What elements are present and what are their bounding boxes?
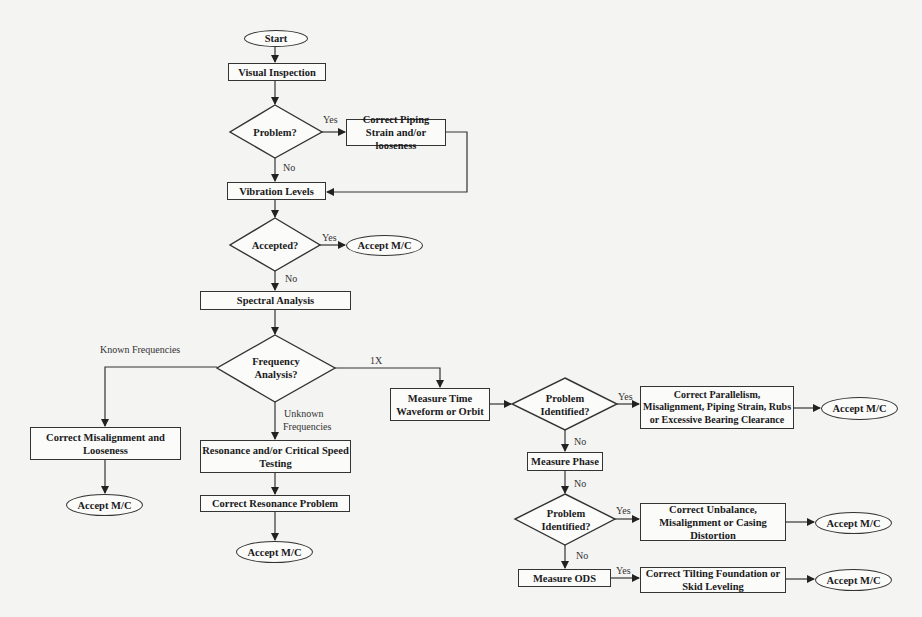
correct-resonance-label: Correct Resonance Problem	[212, 497, 338, 510]
edge-label-unknown-frequencies-2: Frequencies	[283, 421, 331, 432]
measure-ods-label: Measure ODS	[533, 572, 596, 585]
correct-unbalance-label: Correct Unbalance, Misalignment or Casin…	[645, 503, 781, 542]
start-label: Start	[265, 32, 288, 45]
edge-label-accepted-no: No	[285, 273, 297, 284]
accept-mc-label-2: Accept M/C	[78, 499, 132, 512]
problem-identified-1-decision: Problem Identified?	[530, 391, 600, 419]
measure-phase-label: Measure Phase	[531, 455, 599, 468]
correct-tilting-label: Correct Tilting Foundation or Skid Level…	[645, 567, 781, 593]
measure-time-waveform-label: Measure Time Waveform or Orbit	[391, 392, 489, 418]
resonance-testing-label: Resonance and/or Critical Speed Testing	[201, 444, 350, 470]
problem-identified-2-label: Problem Identified?	[532, 507, 600, 533]
correct-resonance-box: Correct Resonance Problem	[200, 495, 350, 512]
problem-decision: Problem?	[235, 124, 315, 140]
edge-label-pi2-yes: Yes	[616, 505, 631, 516]
measure-phase-box: Measure Phase	[527, 452, 603, 471]
edge-label-known-frequencies: Known Frequencies	[100, 344, 180, 355]
accept-mc-label-6: Accept M/C	[827, 574, 881, 587]
edge-label-phase-no: No	[574, 478, 586, 489]
measure-ods-box: Measure ODS	[518, 569, 611, 587]
correct-misalignment-label: Correct Misalignment and Looseness	[31, 431, 180, 457]
accepted-label: Accepted?	[252, 239, 299, 252]
edge-label-pi1-yes: Yes	[618, 391, 633, 402]
edge-label-1x: 1X	[370, 355, 382, 366]
visual-inspection-label: Visual Inspection	[238, 66, 316, 79]
accept-mc-label-1: Accept M/C	[358, 239, 412, 252]
problem-identified-1-label: Problem Identified?	[530, 392, 600, 418]
spectral-analysis-box: Spectral Analysis	[200, 291, 351, 310]
accept-mc-label-4: Accept M/C	[833, 402, 887, 415]
correct-piping-box: Correct Piping Strain and/or looseness	[346, 119, 446, 146]
accept-mc-terminal-3: Accept M/C	[236, 541, 313, 563]
accepted-decision: Accepted?	[235, 237, 315, 253]
vibration-levels-box: Vibration Levels	[227, 182, 326, 200]
vibration-levels-label: Vibration Levels	[239, 185, 314, 198]
edge-label-unknown-frequencies-1: Unknown	[284, 408, 323, 419]
accept-mc-label-3: Accept M/C	[248, 546, 302, 559]
spectral-analysis-label: Spectral Analysis	[237, 294, 314, 307]
correct-tilting-box: Correct Tilting Foundation or Skid Level…	[640, 567, 786, 593]
visual-inspection-box: Visual Inspection	[228, 63, 326, 81]
accept-mc-terminal-1: Accept M/C	[346, 235, 423, 256]
problem-label: Problem?	[253, 126, 297, 139]
problem-identified-2-decision: Problem Identified?	[532, 506, 600, 534]
accept-mc-label-5: Accept M/C	[827, 517, 881, 530]
accept-mc-terminal-5: Accept M/C	[815, 512, 892, 534]
accept-mc-terminal-2: Accept M/C	[66, 494, 143, 516]
edge-label-pi2-no: No	[576, 550, 588, 561]
frequency-analysis-decision: Frequency Analysis?	[240, 354, 312, 382]
correct-unbalance-box: Correct Unbalance, Misalignment or Casin…	[640, 503, 786, 541]
edge-label-pi1-no: No	[574, 436, 586, 447]
resonance-testing-box: Resonance and/or Critical Speed Testing	[200, 440, 351, 473]
start-terminal: Start	[244, 30, 308, 47]
correct-misalignment-box: Correct Misalignment and Looseness	[30, 427, 181, 460]
correct-piping-label: Correct Piping Strain and/or looseness	[349, 113, 443, 152]
accept-mc-terminal-6: Accept M/C	[815, 569, 892, 591]
edge-label-problem-yes: Yes	[323, 114, 338, 125]
edge-label-problem-no: No	[283, 162, 295, 173]
frequency-analysis-label: Frequency Analysis?	[240, 355, 312, 381]
measure-time-waveform-box: Measure Time Waveform or Orbit	[390, 388, 490, 421]
accept-mc-terminal-4: Accept M/C	[821, 397, 898, 420]
correct-parallelism-box: Correct Parallelism, Misalignment, Pipin…	[640, 386, 794, 429]
edge-label-accepted-yes: Yes	[322, 232, 337, 243]
edge-label-ods-yes: Yes	[616, 565, 631, 576]
correct-parallelism-label: Correct Parallelism, Misalignment, Pipin…	[642, 389, 792, 427]
